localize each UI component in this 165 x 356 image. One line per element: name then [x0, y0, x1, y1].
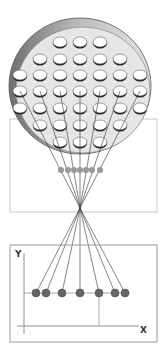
hole [33, 70, 47, 80]
plot-point [121, 289, 129, 297]
hole [53, 103, 67, 113]
plot-point [42, 289, 50, 297]
hole [53, 120, 67, 130]
hole [53, 70, 67, 80]
plot-point [95, 289, 103, 297]
hole [113, 120, 127, 130]
ray-lower [46, 208, 80, 293]
hole [133, 70, 147, 80]
plot-point [58, 289, 66, 297]
intermediate-dot [83, 167, 89, 173]
hole [53, 37, 67, 47]
intermediate-dot [89, 167, 95, 173]
intermediate-dot [65, 167, 71, 173]
hole [93, 137, 107, 147]
hole [133, 103, 147, 113]
hole [33, 54, 47, 64]
hole [93, 70, 107, 80]
hole [53, 54, 67, 64]
ray-lower [80, 208, 99, 293]
hole [13, 103, 27, 113]
hole [113, 54, 127, 64]
intermediate-dot [58, 167, 64, 173]
plot-point [32, 289, 40, 297]
optics-diagram [0, 0, 165, 356]
ray-lower [36, 208, 80, 293]
xy-plot [10, 245, 157, 342]
hole [33, 120, 47, 130]
intermediate-dot [77, 167, 83, 173]
ray-lower [80, 208, 115, 293]
plot-point [76, 289, 84, 297]
hole [113, 70, 127, 80]
hole [73, 70, 87, 80]
hole [53, 137, 67, 147]
hole [93, 120, 107, 130]
intermediate-dot [71, 167, 77, 173]
hole [13, 70, 27, 80]
ray-lower [62, 208, 80, 293]
hole [93, 103, 107, 113]
x-axis-label: X [140, 326, 147, 335]
plot-point [111, 289, 119, 297]
hole [93, 37, 107, 47]
hole [73, 54, 87, 64]
intermediate-dot [97, 167, 103, 173]
hole [93, 54, 107, 64]
y-axis-label: Y [15, 250, 22, 259]
hole [73, 37, 87, 47]
ray-lower [80, 208, 125, 293]
intermediate-dots [58, 167, 103, 173]
